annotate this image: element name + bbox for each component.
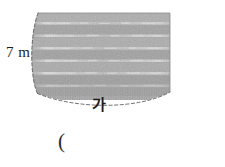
field-bottom-shade <box>30 84 178 96</box>
field-area-diagram <box>0 0 225 167</box>
open-paren-label: ( <box>58 131 65 152</box>
base-label: 가 <box>92 98 106 113</box>
height-label: 7 m <box>6 45 30 60</box>
field-region <box>30 8 178 100</box>
